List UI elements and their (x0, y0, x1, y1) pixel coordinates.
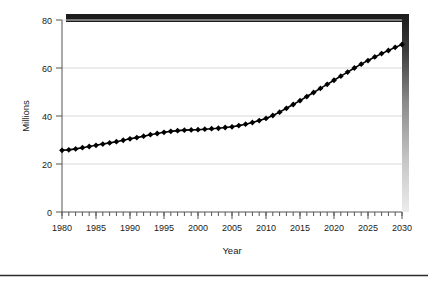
y-axis-title: Millions (20, 100, 31, 132)
y-tick-label-20: 20 (42, 160, 52, 170)
y-tick-label-80: 80 (42, 16, 52, 26)
y-tick-label-0: 0 (47, 208, 52, 218)
x-tick-label-2005: 2005 (222, 223, 242, 233)
y-axis-tick-labels: 0 20 40 60 80 (42, 16, 52, 218)
x-tick-label-2010: 2010 (256, 223, 276, 233)
chart-figure: 0 20 40 60 80 19801985199019952000200520… (0, 0, 428, 282)
y-tick-label-60: 60 (42, 64, 52, 74)
top-bar-decoration (66, 14, 408, 22)
x-tick-label-1980: 1980 (52, 223, 72, 233)
x-tick-label-1990: 1990 (120, 223, 140, 233)
line-chart: 0 20 40 60 80 19801985199019952000200520… (0, 0, 428, 282)
x-axis-major-ticks (62, 212, 402, 219)
x-axis-title: Year (222, 245, 241, 256)
x-tick-label-1985: 1985 (86, 223, 106, 233)
x-tick-label-2020: 2020 (324, 223, 344, 233)
y-axis-ticks (56, 20, 62, 212)
x-tick-label-2030: 2030 (392, 223, 412, 233)
x-axis-tick-labels: 1980198519901995200020052010201520202025… (52, 223, 412, 233)
x-tick-label-2000: 2000 (188, 223, 208, 233)
x-tick-label-2015: 2015 (290, 223, 310, 233)
y-tick-label-40: 40 (42, 112, 52, 122)
x-tick-label-2025: 2025 (358, 223, 378, 233)
x-tick-label-1995: 1995 (154, 223, 174, 233)
